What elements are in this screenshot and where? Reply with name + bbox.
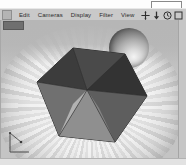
menu-item-cameras[interactable]: Cameras <box>34 11 67 19</box>
menu-item-view[interactable]: View <box>117 11 138 19</box>
toolbar <box>141 11 186 20</box>
menu-item-display[interactable]: Display <box>67 11 95 19</box>
polyhedron-object[interactable] <box>29 44 151 154</box>
render-viewport[interactable] <box>0 20 179 163</box>
bottom-gutter <box>0 158 186 165</box>
window-top-strip <box>0 0 186 8</box>
clock-icon[interactable] <box>163 11 172 20</box>
app-icon[interactable] <box>2 10 12 20</box>
move-icon[interactable] <box>141 11 150 20</box>
right-gutter <box>178 20 186 163</box>
stop-square-icon[interactable] <box>174 11 183 20</box>
menu-item-filter[interactable]: Filter <box>95 11 117 19</box>
axis-gizmo <box>7 130 33 156</box>
menu-item-edit[interactable]: Edit <box>15 11 34 19</box>
application-window: Edit Cameras Display Filter View <box>0 0 186 165</box>
download-arrow-icon[interactable] <box>152 11 161 20</box>
viewport-label <box>3 21 24 30</box>
